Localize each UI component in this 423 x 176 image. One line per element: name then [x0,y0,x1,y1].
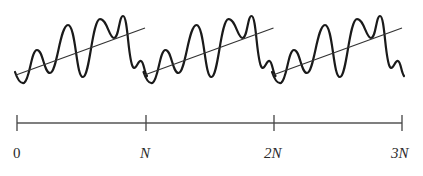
tick-label-3n: 3N [390,145,410,161]
tick-label-n: N [139,145,151,161]
periodic-signal-figure: 0 N 2N 3N [0,0,423,176]
waveform-period-1 [15,16,147,83]
waveform-period-3 [272,16,404,83]
time-axis: 0 N 2N 3N [13,115,410,161]
tick-label-2n: 2N [264,145,283,161]
tick-label-0: 0 [13,145,21,161]
waveform-group [15,16,404,83]
waveform-period-2 [144,16,276,83]
